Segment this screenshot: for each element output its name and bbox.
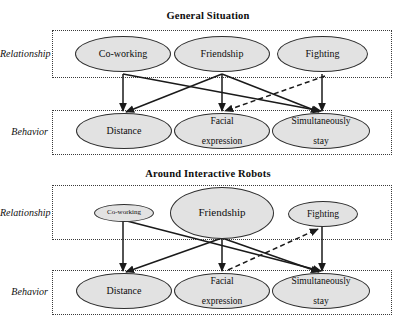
node-label: Facialexpression [194,276,251,307]
node-label: Friendship [197,49,248,60]
row-label-relationship-general: Relationship [0,48,48,59]
node-coworking-general[interactable]: Co-working [75,36,171,72]
node-simultaneously-stay-robots[interactable]: Simultaneouslystay [272,273,370,309]
node-fighting-general[interactable]: Fighting [277,36,368,72]
panel-title-general: General Situation [0,10,416,21]
edge-friendship-distance [126,238,222,272]
edge-fighting-facial-dashed [225,76,325,111]
node-label: Co-working [95,49,151,60]
node-label: Co-working [103,209,145,217]
node-label: Simultaneouslystay [283,276,358,307]
node-friendship-general[interactable]: Friendship [174,36,270,72]
panel-general-situation: General Situation Relationship Behavior [0,0,416,162]
node-friendship-robots[interactable]: Friendship [170,187,274,239]
edge-coworking-simultaneously [123,74,321,111]
node-label: Distance [103,126,146,137]
node-label: Simultaneouslystay [283,116,358,147]
row-label-relationship-robots: Relationship [0,207,48,218]
panel-title-robots: Around Interactive Robots [0,168,416,179]
node-label: Friendship [194,207,249,219]
node-label: Fighting [303,209,343,219]
edge-friendship-simultaneously [222,74,319,112]
node-coworking-robots[interactable]: Co-working [94,204,154,222]
node-label: Facialexpression [194,116,251,147]
node-label: Distance [103,286,146,297]
edge-friendship-simultaneously [222,238,319,272]
row-label-behavior-robots: Behavior [0,286,48,297]
node-facial-expression-robots[interactable]: Facialexpression [174,273,270,309]
edge-friendship-distance [126,74,222,112]
row-label-behavior-general: Behavior [0,126,48,137]
node-simultaneously-stay-general[interactable]: Simultaneouslystay [272,113,370,149]
node-distance-robots[interactable]: Distance [76,273,172,309]
node-facial-expression-general[interactable]: Facialexpression [174,113,270,149]
panel-around-interactive-robots: Around Interactive Robots Relationship B… [0,160,416,322]
node-label: Fighting [302,49,344,60]
node-distance-general[interactable]: Distance [76,113,172,149]
node-fighting-robots[interactable]: Fighting [288,201,358,227]
